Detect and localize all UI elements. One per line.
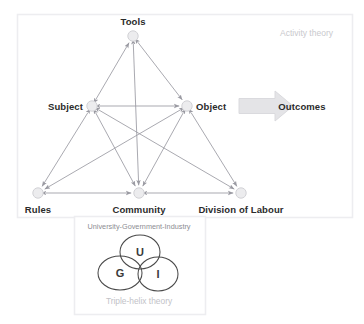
- activity-theory-title: Activity theory: [280, 28, 333, 38]
- triple-helix-caption: Triple-helix theory: [106, 296, 172, 306]
- triple-helix-subtitle: University-Government-Industry: [88, 222, 191, 231]
- node-rules[interactable]: [33, 188, 43, 198]
- activity-theory-panel: [18, 15, 353, 218]
- node-label-object: Object: [196, 101, 226, 112]
- node-subject[interactable]: [87, 101, 97, 111]
- node-label-community: Community: [112, 204, 165, 215]
- outcomes-label: Outcomes: [278, 101, 325, 112]
- venn-letter-industry: I: [156, 268, 159, 280]
- diagram-root: Activity theory ToolsSubjectObjectRulesC…: [0, 0, 364, 324]
- node-tools[interactable]: [128, 31, 138, 41]
- node-label-rules: Rules: [25, 204, 51, 215]
- venn-letter-university: U: [136, 246, 144, 258]
- activity-theory-panel-border: [18, 15, 353, 218]
- node-label-division: Division of Labour: [198, 204, 283, 215]
- node-community[interactable]: [134, 188, 144, 198]
- activity-theory-diagram: [0, 0, 364, 324]
- node-label-subject: Subject: [48, 101, 83, 112]
- node-label-tools: Tools: [120, 16, 145, 27]
- venn-letter-government: G: [116, 267, 125, 279]
- node-object[interactable]: [182, 101, 192, 111]
- node-division[interactable]: [236, 188, 246, 198]
